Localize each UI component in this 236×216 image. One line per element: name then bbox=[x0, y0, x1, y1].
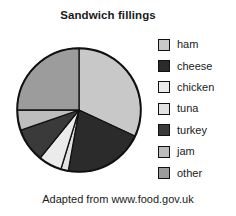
legend-label-jam: jam bbox=[177, 146, 195, 157]
legend-label-turkey: turkey bbox=[177, 125, 207, 136]
legend: ham cheese chicken tuna turkey jam other bbox=[158, 34, 236, 184]
pie-chart-figure: Sandwich fillings ham cheese chicken tun… bbox=[0, 0, 236, 216]
legend-label-cheese: cheese bbox=[177, 61, 212, 72]
legend-swatch-chicken bbox=[158, 81, 170, 93]
legend-item-chicken[interactable]: chicken bbox=[158, 77, 236, 98]
legend-item-ham[interactable]: ham bbox=[158, 34, 236, 55]
legend-swatch-other bbox=[158, 167, 170, 179]
pie-slice-other[interactable] bbox=[18, 49, 80, 111]
legend-item-jam[interactable]: jam bbox=[158, 141, 236, 162]
legend-label-tuna: tuna bbox=[177, 103, 198, 114]
legend-swatch-ham bbox=[158, 39, 170, 51]
legend-label-ham: ham bbox=[177, 39, 198, 50]
pie-slice-group bbox=[18, 49, 141, 172]
page-title: Sandwich fillings bbox=[0, 9, 216, 21]
legend-label-chicken: chicken bbox=[177, 82, 214, 93]
legend-item-other[interactable]: other bbox=[158, 162, 236, 183]
pie-chart-svg bbox=[16, 38, 142, 182]
legend-swatch-jam bbox=[158, 146, 170, 158]
legend-swatch-tuna bbox=[158, 103, 170, 115]
pie-chart bbox=[16, 38, 142, 182]
legend-item-tuna[interactable]: tuna bbox=[158, 98, 236, 119]
legend-swatch-turkey bbox=[158, 124, 170, 136]
legend-item-turkey[interactable]: turkey bbox=[158, 120, 236, 141]
legend-label-other: other bbox=[177, 168, 202, 179]
source-caption: Adapted from www.food.gov.uk bbox=[0, 193, 236, 205]
legend-item-cheese[interactable]: cheese bbox=[158, 55, 236, 76]
legend-swatch-cheese bbox=[158, 60, 170, 72]
